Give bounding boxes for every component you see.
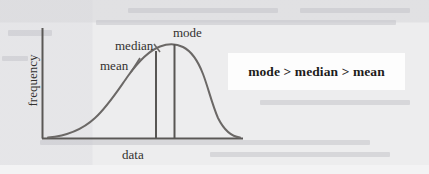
mean-label: mean: [100, 59, 128, 72]
x-axis-label: data: [122, 148, 144, 161]
skewed-distribution-figure: mean median mode data frequency mode > m…: [0, 0, 429, 174]
y-axis-label: frequency: [26, 43, 39, 119]
relation-callout-box: mode > median > mean: [228, 53, 405, 90]
frequency-curve: [48, 44, 240, 137]
mean-leader-line: [131, 58, 140, 72]
relation-callout-text: mode > median > mean: [248, 64, 385, 80]
median-label: median: [115, 39, 153, 52]
mode-label: mode: [173, 26, 202, 39]
